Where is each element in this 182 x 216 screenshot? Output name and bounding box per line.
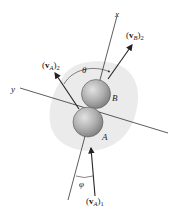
sphere-b xyxy=(82,80,111,109)
x-axis-label: x xyxy=(114,9,119,19)
y-axis-label: y xyxy=(10,84,15,94)
body-b-label: B xyxy=(112,93,118,103)
vA1-arrow xyxy=(91,148,95,196)
vA1-label: (vA)1 xyxy=(86,196,104,207)
vA2-label: (vA)2 xyxy=(42,60,60,71)
theta-label: θ xyxy=(82,65,87,75)
vB2-label: (vB)2 xyxy=(126,30,144,41)
collision-diagram: x y B A θ φ (vA)2 (vB)2 (vA)1 xyxy=(0,0,182,216)
sphere-a xyxy=(73,107,103,137)
phi-label: φ xyxy=(79,179,84,189)
body-a-label: A xyxy=(101,132,108,142)
phi-arc xyxy=(76,176,93,178)
